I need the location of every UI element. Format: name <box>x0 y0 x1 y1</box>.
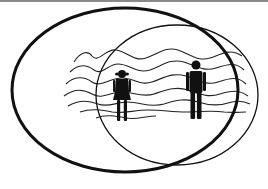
wavy-line <box>66 75 246 84</box>
woman-figure-icon <box>113 70 131 121</box>
wavy-line <box>74 49 242 62</box>
wavy-line <box>70 61 244 72</box>
wavy-line <box>64 88 248 96</box>
wavy-line <box>68 100 250 106</box>
wavy-lines <box>64 49 250 119</box>
venn-diagram <box>0 0 268 189</box>
wavy-line <box>80 110 246 113</box>
